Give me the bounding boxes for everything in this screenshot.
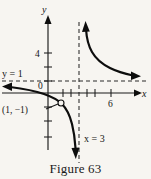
x-tick-label-6: 6 [108, 99, 113, 109]
figure-63-graph: y x 0 4 6 y = 1 x = 3 (1, −1) Figure 63 [0, 0, 151, 179]
down-branch-arrow-icon [72, 148, 80, 160]
left-branch-arrow-icon [2, 83, 12, 92]
x-axis-arrow-icon [134, 90, 142, 97]
left-branch-curve [10, 87, 76, 148]
figure-caption: Figure 63 [0, 161, 151, 177]
horizontal-asymptote-label: y = 1 [2, 68, 23, 79]
y-axis-label: y [41, 4, 47, 15]
origin-label: 0 [38, 81, 43, 91]
x-axis-label: x [141, 88, 147, 99]
y-tick-label-4: 4 [35, 49, 40, 59]
vertical-asymptote-label: x = 3 [84, 133, 105, 144]
right-branch-curve [86, 29, 133, 76]
hole-marker-open-circle [58, 100, 64, 106]
y-axis-arrow-icon [45, 15, 52, 24]
right-branch-arrow-icon [131, 72, 141, 81]
hole-point-label: (1, −1) [2, 105, 28, 116]
up-branch-arrow-icon [82, 21, 90, 32]
coordinate-plane: y x 0 4 6 y = 1 x = 3 (1, −1) [0, 0, 151, 179]
